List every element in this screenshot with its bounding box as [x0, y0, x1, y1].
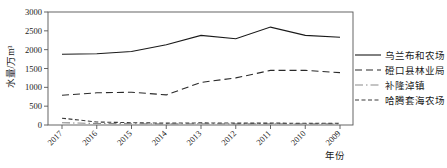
x-tick-label: 2011	[254, 128, 273, 147]
line-chart: 0500100015002000250030002017201620152014…	[0, 0, 447, 168]
plot-border	[48, 12, 353, 125]
y-axis-title: 水量/万m³	[3, 46, 17, 89]
x-tick-label: 2012	[219, 128, 238, 147]
x-tick-label: 2015	[115, 128, 134, 147]
x-tick-label: 2017	[45, 128, 64, 147]
y-tick-label: 3000	[25, 7, 42, 17]
legend-label-3: 哈腾套海农场	[385, 95, 445, 106]
series-line-3	[62, 118, 340, 123]
y-tick-label: 1500	[25, 64, 42, 74]
legend-label-0: 乌兰布和农场	[385, 50, 445, 61]
x-tick-label: 2013	[184, 128, 203, 147]
x-tick-label: 2009	[323, 128, 342, 147]
series-line-1	[62, 70, 340, 95]
legend-label-1: 磴口县林业局	[385, 65, 445, 76]
x-axis-title: 年份	[325, 148, 345, 162]
y-tick-label: 2000	[25, 45, 42, 55]
y-tick-label: 0	[38, 120, 42, 130]
y-tick-label: 2500	[25, 26, 42, 36]
y-tick-label: 500	[29, 101, 42, 111]
y-tick-label: 1000	[25, 82, 42, 92]
series-line-0	[62, 27, 340, 54]
x-tick-label: 2016	[80, 128, 99, 147]
x-tick-label: 2010	[289, 128, 308, 147]
x-tick-label: 2014	[150, 128, 170, 148]
chart-canvas: 0500100015002000250030002017201620152014…	[0, 0, 447, 168]
legend-label-2: 补隆淖镇	[385, 80, 425, 91]
